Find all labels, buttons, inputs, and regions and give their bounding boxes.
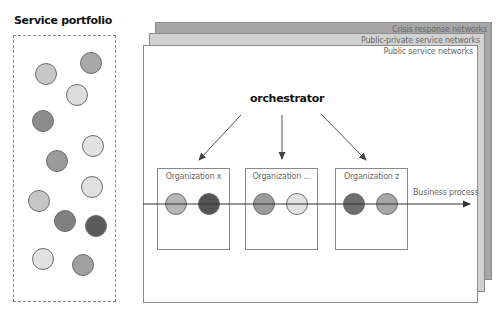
business-process-arrow (0, 0, 504, 317)
business-process-label: Business process (413, 188, 478, 197)
